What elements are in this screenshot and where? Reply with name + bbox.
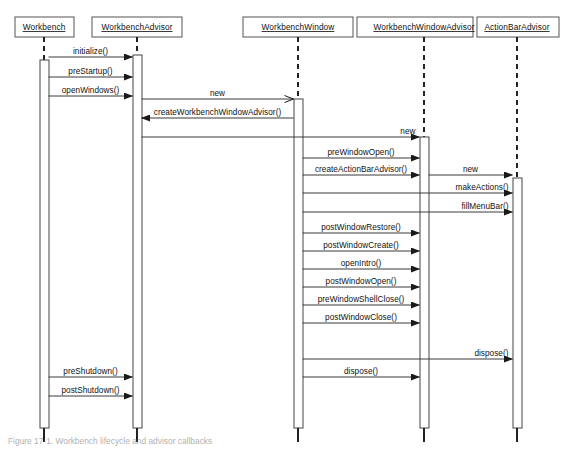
figure-caption: Figure 17-1. Workbench lifecycle and adv… [8,436,212,446]
message-6: preWindowOpen() [303,148,420,158]
message-label-4: createWorkbenchWindowAdvisor() [154,108,282,117]
message-label-2: openWindows() [62,86,120,95]
message-14: postWindowOpen() [303,277,420,287]
lifeline-label-workbench_window: WorkbenchWindow [262,22,336,32]
message-19: dispose() [303,367,420,377]
message-9: makeActions() [303,183,513,193]
message-0: initialize() [49,47,133,57]
message-8: new [429,165,513,175]
message-label-19: dispose() [344,367,378,376]
message-label-0: initialize() [73,47,108,56]
message-label-1: preStartup() [68,67,113,76]
message-label-13: openIntro() [341,259,382,268]
activation-bar-action_bar_advisor[interactable] [513,178,522,428]
message-10: fillMenuBar() [303,202,513,212]
message-label-12: postWindowCreate() [323,241,399,250]
message-13: openIntro() [303,259,420,269]
lifeline-label-workbench_window_advisor: WorkbenchWindowAdvisor [373,22,474,32]
message-label-17: dispose() [474,349,508,358]
message-label-18: preShutdown() [63,367,118,376]
message-20: postShutdown() [49,386,133,396]
activation-bar-workbench_window_advisor[interactable] [420,137,429,428]
message-17: dispose() [303,349,513,359]
message-3: new [142,89,294,99]
message-label-20: postShutdown() [61,386,119,395]
message-1: preStartup() [49,67,133,77]
message-label-14: postWindowOpen() [326,277,397,286]
activation-bar-workbench_window[interactable] [294,99,303,428]
lifeline-action_bar_advisor: ActionBarAdvisor [477,17,559,438]
message-label-6: preWindowOpen() [327,148,394,157]
lifeline-label-action_bar_advisor: ActionBarAdvisor [484,22,549,32]
message-2: openWindows() [49,86,133,96]
activation-bar-workbench_advisor[interactable] [133,55,142,428]
message-label-5: new [400,127,415,136]
message-16: postWindowClose() [303,313,420,323]
message-label-9: makeActions() [456,183,509,192]
message-18: preShutdown() [49,367,133,377]
messages-layer: initialize()preStartup()openWindows()new… [44,47,517,442]
lifeline-label-workbench: Workbench [23,22,66,32]
message-5: new [142,127,420,137]
message-label-3: new [210,89,225,98]
lifeline-label-workbench_advisor: WorkbenchAdvisor [101,22,172,32]
message-11: postWindowRestore() [303,223,420,233]
message-label-10: fillMenuBar() [461,202,508,211]
activation-bar-workbench[interactable] [40,60,49,428]
message-label-16: postWindowClose() [325,313,397,322]
message-label-11: postWindowRestore() [321,223,401,232]
sequence-diagram-canvas: WorkbenchWorkbenchAdvisorWorkbenchWindow… [0,0,574,454]
sequence-diagram: WorkbenchWorkbenchAdvisorWorkbenchWindow… [0,0,574,454]
message-12: postWindowCreate() [303,241,420,251]
message-7: createActionBarAdvisor() [303,165,420,175]
message-label-7: createActionBarAdvisor() [315,165,407,174]
message-4: createWorkbenchWindowAdvisor() [142,108,294,118]
message-label-15: preWindowShellClose() [318,295,405,304]
message-15: preWindowShellClose() [303,295,420,305]
message-label-8: new [463,165,478,174]
